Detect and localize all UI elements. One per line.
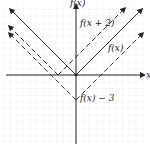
fxm3-label: f(x) − 3 <box>79 93 115 103</box>
fx2-label: f(x + 2) <box>79 18 115 28</box>
function-plot: f(x) x f(x + 2) f(x) f(x) − 3 <box>0 0 150 144</box>
origin-point <box>75 74 78 77</box>
graph: f(x) x f(x + 2) f(x) f(x) − 3 <box>0 0 150 144</box>
y-axis-label: f(x) <box>69 0 86 8</box>
fx-label: f(x) <box>107 43 124 53</box>
grid <box>2 4 146 144</box>
x-axis-label: x <box>146 70 150 80</box>
